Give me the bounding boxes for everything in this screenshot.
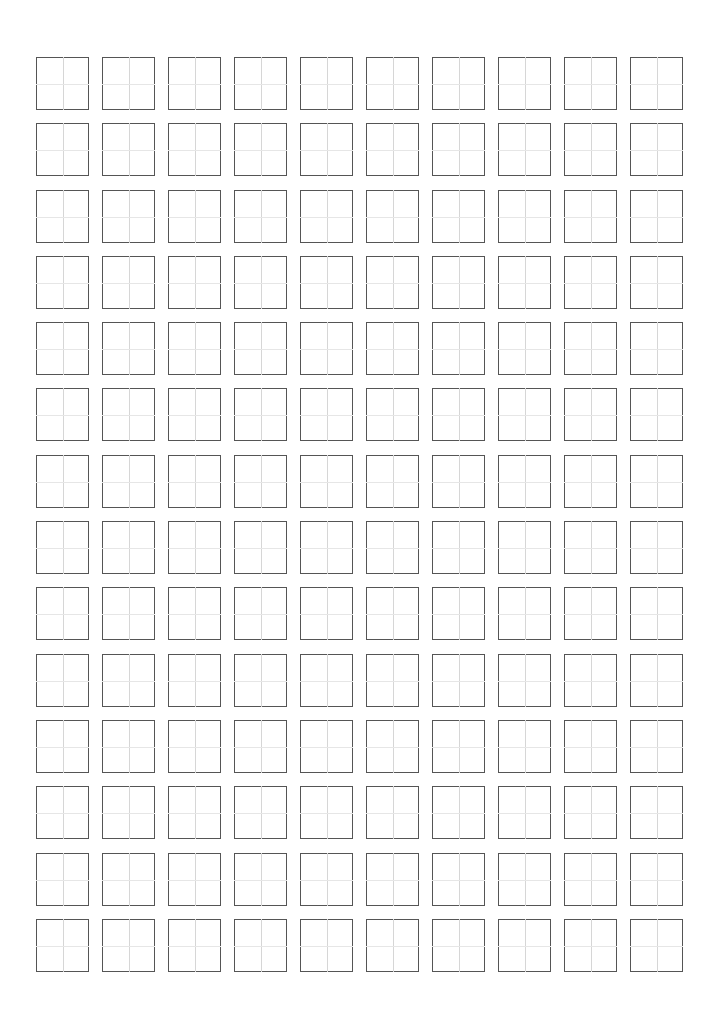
practice-grid-cell[interactable]: [102, 587, 155, 640]
practice-grid-cell[interactable]: [36, 786, 89, 839]
practice-grid-cell[interactable]: [630, 123, 683, 176]
practice-grid-cell[interactable]: [432, 256, 485, 309]
practice-grid-cell[interactable]: [36, 853, 89, 906]
practice-grid-cell[interactable]: [168, 388, 221, 441]
practice-grid-cell[interactable]: [300, 521, 353, 574]
practice-grid-cell[interactable]: [564, 587, 617, 640]
practice-grid-cell[interactable]: [564, 190, 617, 243]
practice-grid-cell[interactable]: [432, 322, 485, 375]
practice-grid-cell[interactable]: [102, 654, 155, 707]
practice-grid-cell[interactable]: [498, 256, 551, 309]
practice-grid-cell[interactable]: [168, 190, 221, 243]
practice-grid-cell[interactable]: [168, 123, 221, 176]
practice-grid-cell[interactable]: [102, 57, 155, 110]
practice-grid-cell[interactable]: [168, 853, 221, 906]
practice-grid-cell[interactable]: [36, 388, 89, 441]
practice-grid-cell[interactable]: [234, 853, 287, 906]
practice-grid-cell[interactable]: [366, 190, 419, 243]
practice-grid-cell[interactable]: [498, 720, 551, 773]
practice-grid-cell[interactable]: [36, 720, 89, 773]
practice-grid-cell[interactable]: [300, 587, 353, 640]
practice-grid-cell[interactable]: [300, 388, 353, 441]
practice-grid-cell[interactable]: [300, 455, 353, 508]
practice-grid-cell[interactable]: [300, 190, 353, 243]
practice-grid-cell[interactable]: [102, 322, 155, 375]
practice-grid-cell[interactable]: [498, 587, 551, 640]
practice-grid-cell[interactable]: [498, 455, 551, 508]
practice-grid-cell[interactable]: [564, 521, 617, 574]
practice-grid-cell[interactable]: [300, 720, 353, 773]
practice-grid-cell[interactable]: [234, 587, 287, 640]
practice-grid-cell[interactable]: [366, 521, 419, 574]
practice-grid-cell[interactable]: [630, 853, 683, 906]
practice-grid-cell[interactable]: [432, 455, 485, 508]
practice-grid-cell[interactable]: [432, 786, 485, 839]
practice-grid-cell[interactable]: [630, 720, 683, 773]
practice-grid-cell[interactable]: [432, 587, 485, 640]
practice-grid-cell[interactable]: [300, 786, 353, 839]
practice-grid-cell[interactable]: [630, 786, 683, 839]
practice-grid-cell[interactable]: [498, 786, 551, 839]
practice-grid-cell[interactable]: [234, 322, 287, 375]
practice-grid-cell[interactable]: [366, 587, 419, 640]
practice-grid-cell[interactable]: [36, 654, 89, 707]
practice-grid-cell[interactable]: [300, 256, 353, 309]
practice-grid-cell[interactable]: [102, 123, 155, 176]
practice-grid-cell[interactable]: [36, 587, 89, 640]
practice-grid-cell[interactable]: [102, 256, 155, 309]
practice-grid-cell[interactable]: [432, 919, 485, 972]
practice-grid-cell[interactable]: [168, 786, 221, 839]
practice-grid-cell[interactable]: [498, 853, 551, 906]
practice-grid-cell[interactable]: [168, 57, 221, 110]
practice-grid-cell[interactable]: [102, 919, 155, 972]
practice-grid-cell[interactable]: [564, 256, 617, 309]
practice-grid-cell[interactable]: [366, 853, 419, 906]
practice-grid-cell[interactable]: [564, 57, 617, 110]
practice-grid-cell[interactable]: [102, 455, 155, 508]
practice-grid-cell[interactable]: [432, 190, 485, 243]
practice-grid-cell[interactable]: [102, 720, 155, 773]
practice-grid-cell[interactable]: [498, 57, 551, 110]
practice-grid-cell[interactable]: [498, 322, 551, 375]
practice-grid-cell[interactable]: [564, 654, 617, 707]
practice-grid-cell[interactable]: [102, 190, 155, 243]
practice-grid-cell[interactable]: [36, 322, 89, 375]
practice-grid-cell[interactable]: [630, 57, 683, 110]
practice-grid-cell[interactable]: [630, 256, 683, 309]
practice-grid-cell[interactable]: [234, 388, 287, 441]
practice-grid-cell[interactable]: [498, 190, 551, 243]
practice-grid-cell[interactable]: [102, 388, 155, 441]
practice-grid-cell[interactable]: [234, 190, 287, 243]
practice-grid-cell[interactable]: [630, 322, 683, 375]
practice-grid-cell[interactable]: [630, 388, 683, 441]
practice-grid-cell[interactable]: [366, 256, 419, 309]
practice-grid-cell[interactable]: [168, 521, 221, 574]
practice-grid-cell[interactable]: [234, 57, 287, 110]
practice-grid-cell[interactable]: [36, 57, 89, 110]
practice-grid-cell[interactable]: [300, 322, 353, 375]
practice-grid-cell[interactable]: [432, 654, 485, 707]
practice-grid-cell[interactable]: [366, 720, 419, 773]
practice-grid-cell[interactable]: [366, 322, 419, 375]
practice-grid-cell[interactable]: [36, 190, 89, 243]
practice-grid-cell[interactable]: [630, 587, 683, 640]
practice-grid-cell[interactable]: [630, 521, 683, 574]
practice-grid-cell[interactable]: [300, 57, 353, 110]
practice-grid-cell[interactable]: [36, 256, 89, 309]
practice-grid-cell[interactable]: [564, 720, 617, 773]
practice-grid-cell[interactable]: [234, 919, 287, 972]
practice-grid-cell[interactable]: [432, 123, 485, 176]
practice-grid-cell[interactable]: [498, 919, 551, 972]
practice-grid-cell[interactable]: [564, 123, 617, 176]
practice-grid-cell[interactable]: [366, 654, 419, 707]
practice-grid-cell[interactable]: [168, 322, 221, 375]
practice-grid-cell[interactable]: [498, 654, 551, 707]
practice-grid-cell[interactable]: [366, 123, 419, 176]
practice-grid-cell[interactable]: [366, 786, 419, 839]
practice-grid-cell[interactable]: [168, 720, 221, 773]
practice-grid-cell[interactable]: [564, 388, 617, 441]
practice-grid-cell[interactable]: [234, 123, 287, 176]
practice-grid-cell[interactable]: [168, 256, 221, 309]
practice-grid-cell[interactable]: [234, 654, 287, 707]
practice-grid-cell[interactable]: [432, 521, 485, 574]
